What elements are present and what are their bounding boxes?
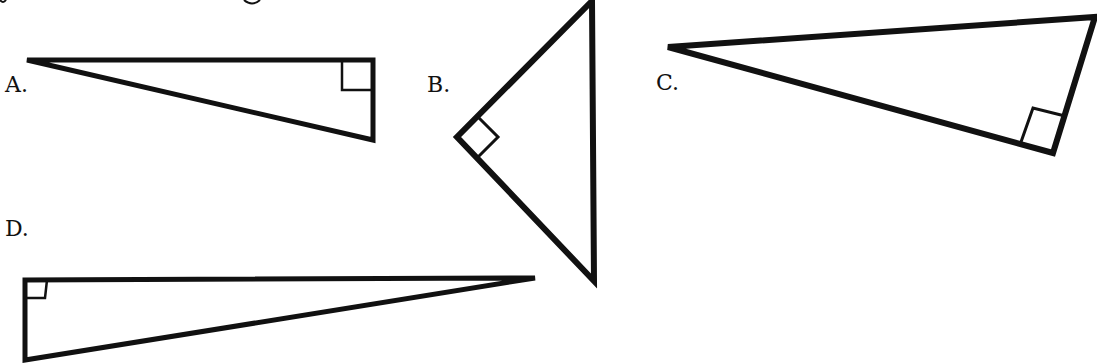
triangle-d [25, 278, 535, 360]
triangle-a-shape [27, 60, 373, 140]
clipped-text-fragment [244, 0, 260, 4]
right-angle-marker-b [478, 117, 498, 157]
triangles-canvas [0, 0, 1097, 364]
right-angle-marker-a [342, 60, 373, 90]
label-b: B. [427, 74, 450, 96]
clipped-text-fragment [0, 0, 6, 2]
triangle-b-shape [457, 1, 594, 281]
label-a: A. [5, 74, 28, 96]
triangle-c-shape [668, 17, 1095, 153]
triangle-d-shape [25, 278, 535, 360]
label-c: C. [656, 72, 679, 94]
label-d: D. [5, 218, 29, 240]
triangle-c [668, 17, 1095, 153]
triangle-b [457, 1, 594, 281]
triangle-a [27, 60, 373, 140]
right-angle-marker-d [25, 280, 47, 298]
triangle-figure: A. B. C. D. [0, 0, 1097, 364]
